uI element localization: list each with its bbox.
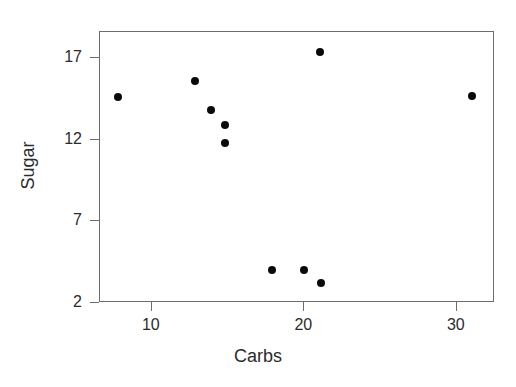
y-tick-label: 7 — [42, 212, 82, 228]
x-tick-label: 10 — [126, 317, 176, 333]
x-axis-label: Carbs — [0, 346, 516, 367]
y-tick-mark — [90, 302, 99, 303]
data-point — [191, 77, 199, 85]
y-axis-label: Sugar — [18, 116, 39, 216]
x-tick-label: 30 — [431, 317, 481, 333]
y-tick-label: 2 — [42, 294, 82, 310]
x-tick-label: 20 — [278, 317, 328, 333]
y-tick-mark — [90, 139, 99, 140]
data-point — [317, 279, 325, 287]
data-point — [468, 92, 476, 100]
data-point — [221, 139, 229, 147]
x-tick-mark — [151, 302, 152, 311]
data-point — [268, 266, 276, 274]
y-tick-mark — [90, 57, 99, 58]
data-point — [114, 93, 122, 101]
x-tick-mark — [303, 302, 304, 311]
data-point — [300, 266, 308, 274]
scatter-plot-figure: 271217 102030 Carbs Sugar — [0, 0, 516, 387]
plot-area — [99, 31, 494, 302]
y-tick-label: 12 — [42, 131, 82, 147]
data-point — [316, 48, 324, 56]
y-tick-label: 17 — [42, 49, 82, 65]
data-point — [221, 121, 229, 129]
data-point — [207, 106, 215, 114]
x-tick-mark — [456, 302, 457, 311]
y-tick-mark — [90, 220, 99, 221]
